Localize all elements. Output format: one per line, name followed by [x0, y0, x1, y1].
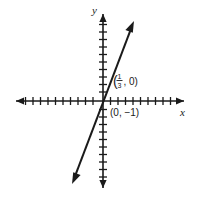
graph-figure: ( 1 3 , 0) (0, −1) y x — [0, 0, 200, 200]
y-axis-label: y — [91, 4, 97, 16]
y-axis-bottom-arrowhead — [99, 180, 106, 188]
line-upper-arrowhead — [125, 21, 134, 33]
x-axis — [16, 97, 184, 104]
x-axis-label: x — [179, 106, 185, 118]
x-intercept-label: ( 1 3 , 0) — [113, 73, 138, 90]
x-intercept-numerator: 1 — [118, 73, 122, 80]
y-axis-top-arrowhead — [99, 14, 106, 22]
line-lower-arrowhead — [72, 172, 81, 184]
x-intercept-denominator: 3 — [118, 82, 122, 89]
y-intercept-label: (0, −1) — [110, 107, 139, 118]
x-axis-right-arrowhead — [176, 97, 184, 104]
coordinate-plane: ( 1 3 , 0) (0, −1) y x — [0, 0, 200, 200]
x-intercept-rest: , 0) — [124, 76, 138, 87]
x-axis-left-arrowhead — [16, 97, 24, 104]
